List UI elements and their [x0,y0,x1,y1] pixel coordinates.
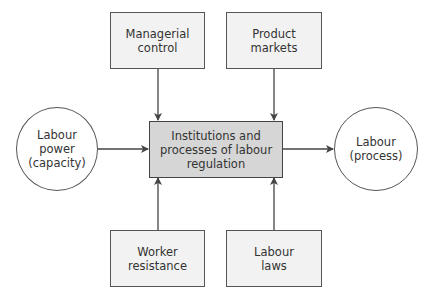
node-product-markets: Product markets [226,12,322,69]
node-label: Worker resistance [128,245,187,273]
node-label: Labour (process) [349,135,402,163]
node-label: Labour laws [254,245,294,273]
node-institutions-processes: Institutions and processes of labour reg… [149,121,283,178]
node-labour-laws: Labour laws [226,230,322,287]
node-label: Institutions and processes of labour reg… [160,129,272,171]
node-labour-process: Labour (process) [334,107,418,191]
node-worker-resistance: Worker resistance [110,230,205,287]
node-label: Labour power (capacity) [28,128,86,170]
node-label: Product markets [251,27,298,55]
node-managerial-control: Managerial control [110,12,205,69]
node-label: Managerial control [126,27,190,55]
node-labour-power: Labour power (capacity) [16,107,98,191]
